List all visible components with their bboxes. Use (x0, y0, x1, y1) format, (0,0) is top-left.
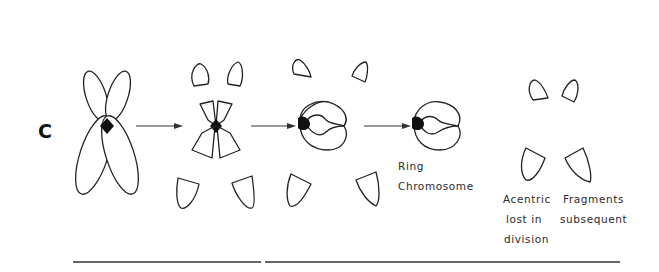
ring-label-line1: Ring (398, 160, 424, 172)
broken-chromosome (177, 62, 255, 208)
fragments-label-line1b: Fragments (563, 193, 624, 205)
fragments-label-line2a: lost in (506, 213, 542, 225)
diagram-canvas (0, 0, 659, 272)
figure-panel-c: C (0, 0, 659, 272)
acentric-fragments (522, 80, 591, 182)
arrow-1 (136, 123, 183, 129)
fragments-label-line1a: Acentric (503, 193, 551, 205)
arrow-2 (251, 123, 296, 129)
fragments-label-line3: division (504, 233, 549, 245)
fragments-label-line2b: subsequent (560, 213, 627, 225)
ring-label-line2: Chromosome (398, 180, 474, 192)
arrow-3 (364, 123, 411, 129)
intact-chromosome (68, 68, 146, 198)
ring-chromosome (412, 102, 460, 150)
ring-forming (287, 60, 379, 207)
